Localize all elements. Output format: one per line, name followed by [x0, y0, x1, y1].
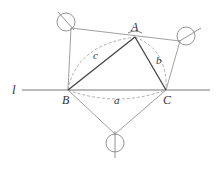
construction-line-bottom-right [115, 90, 166, 134]
label-line-l: l [12, 82, 16, 97]
circle-marker-top-left [57, 12, 75, 31]
construction-line-left-vertical [68, 28, 71, 90]
label-point-c: C [163, 93, 172, 107]
construction-line-right [166, 41, 180, 90]
construction-line-bottom-left [68, 90, 115, 134]
label-side-a: a [114, 94, 120, 106]
label-side-b: b [156, 54, 162, 66]
side-c [68, 37, 135, 90]
label-side-c: c [93, 49, 98, 61]
label-point-a: A [130, 20, 139, 34]
circle-marker-right [177, 27, 201, 45]
circle-marker-bottom [106, 131, 124, 158]
triangle-construction-diagram: l A B C a b c [0, 0, 222, 170]
construction-line-top [71, 28, 180, 41]
label-point-b: B [62, 93, 70, 107]
